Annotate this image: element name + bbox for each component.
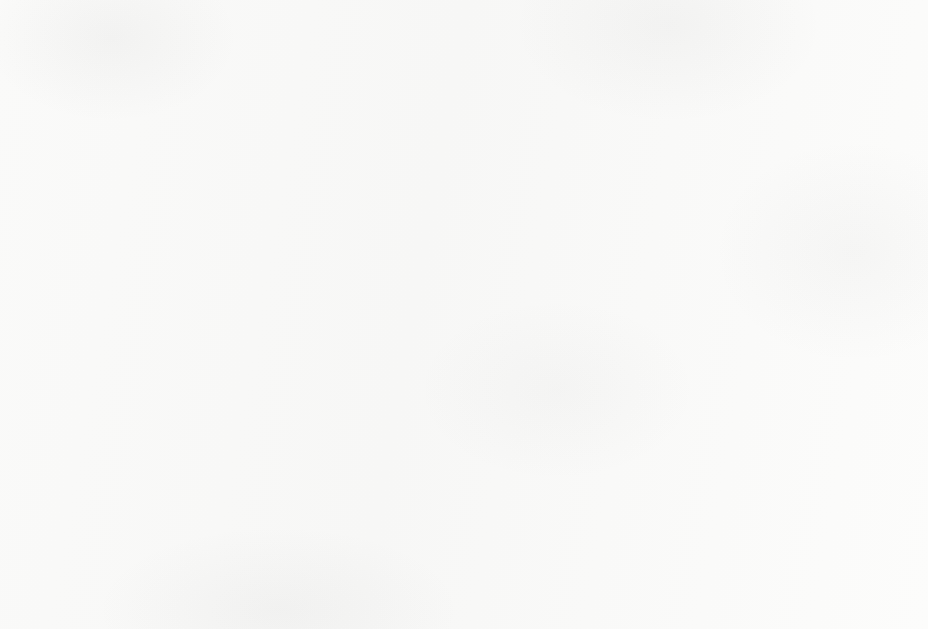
node-applying-environment-time-and-resource-constraints[interactable] [693, 216, 886, 306]
node-test-case-prioritization[interactable] [400, 207, 620, 319]
diagram-canvas: Historical Information Repository Test c… [0, 0, 928, 629]
node-test-case-coverage-data-repository[interactable] [700, 347, 840, 434]
edge-label-coverage-data-for-first-prioritization: coverage data for first prioritization [551, 334, 650, 367]
edge-label-current-priority-value: current priority value [231, 152, 346, 169]
diagram-shapes-layer [0, 0, 928, 629]
node-historical-information-repository[interactable] [45, 62, 215, 170]
node-program-source-code[interactable] [684, 543, 886, 585]
inset-chip-test-case-execution-history[interactable]: Test Case Execution History [64, 381, 208, 423]
edge-label-current-fault-revealing-information: current fault revealing information [231, 99, 420, 116]
inset-chip-fault-detection-effectiveness[interactable]: Fault Detection Effectiveness [64, 427, 239, 469]
inset-panel-caption: Historical Information Repository [64, 483, 276, 498]
node-instrumentation[interactable] [684, 455, 886, 522]
connector-coverage-data-box [538, 330, 545, 376]
node-test-case-repository[interactable] [408, 511, 572, 597]
edge-label-prioritized-test-suite: prioritized test suite [622, 220, 677, 253]
connector-current-execution-information [126, 38, 797, 66]
edge-label-previous-priority-fault-detection-effectiveness-and-execution-history: previous priority, fault detection effec… [224, 222, 353, 272]
inset-chip-test-case-priority[interactable]: Test Case Priority [214, 381, 350, 423]
node-test-case-execution[interactable] [700, 60, 880, 160]
node-test-case-fails-reveal-some-faults[interactable] [463, 72, 640, 146]
edge-label-current-execution-information: current execution information [282, 40, 446, 57]
